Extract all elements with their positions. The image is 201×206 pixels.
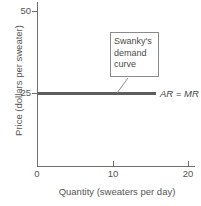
callout-line-3: curve xyxy=(114,59,158,71)
callout-line-1: Swanky's xyxy=(114,36,158,48)
demand-curve-line xyxy=(38,92,156,95)
callout-line-2: demand xyxy=(114,48,158,60)
x-tick-20 xyxy=(188,161,189,167)
x-axis-title: Quantity (sweaters per day) xyxy=(37,186,197,197)
x-tick-10 xyxy=(113,161,114,167)
x-tick-label-20: 20 xyxy=(178,169,198,179)
y-axis-title: Price (dollars per sweater) xyxy=(13,6,24,156)
y-axis-line xyxy=(37,2,38,167)
demand-curve-callout: Swanky's demand curve xyxy=(110,32,159,77)
x-tick-label-10: 10 xyxy=(103,169,123,179)
series-label-ar-mr: AR = MR xyxy=(160,88,199,99)
y-tick-50 xyxy=(32,11,38,12)
demand-curve-chart: 50 25 0 10 20 Price (dollars per sweater… xyxy=(0,0,201,206)
x-axis-line xyxy=(37,166,195,167)
callout-leader-line xyxy=(108,74,138,96)
x-tick-label-0: 0 xyxy=(27,169,47,179)
